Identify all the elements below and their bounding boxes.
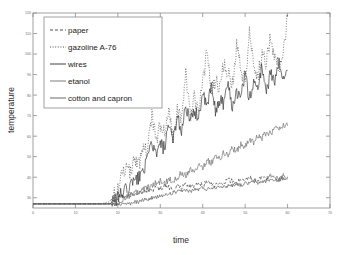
chart-legend: papergazoline A-76wiresetanolcotton and … [44, 17, 162, 108]
legend-item-label: gazoline A-76 [68, 43, 117, 52]
x-axis-title: time [173, 235, 189, 245]
y-tick-label: 100 [25, 52, 31, 56]
x-tick-label: 60 [286, 211, 290, 215]
x-tick-label: 30 [158, 211, 162, 215]
y-tick-label: 120 [25, 11, 31, 15]
y-tick-label: 30 [27, 196, 31, 200]
y-tick-label: 40 [27, 176, 31, 180]
legend-item-label: paper [68, 26, 89, 35]
y-tick-label: 90 [27, 73, 31, 77]
x-tick-label: 10 [73, 211, 77, 215]
x-tick-label: 50 [243, 211, 247, 215]
chart-figure: 30405060708090100110120 010203040506070 … [0, 0, 350, 255]
y-axis-title: temperature [6, 87, 16, 133]
x-tick-label: 40 [201, 211, 205, 215]
y-tick-label: 110 [25, 32, 31, 36]
legend-item-label: cotton and capron [68, 94, 132, 103]
y-tick-label: 60 [27, 135, 31, 139]
legend-item-label: wires [67, 60, 87, 69]
x-tick-label: 20 [116, 211, 120, 215]
y-tick-label: 70 [27, 114, 31, 118]
y-tick-label: 50 [27, 155, 31, 159]
y-tick-label: 80 [27, 94, 31, 98]
x-tick-label: 0 [32, 211, 34, 215]
temperature-vs-time-line-chart: 30405060708090100110120 010203040506070 … [0, 0, 350, 255]
x-tick-label: 70 [328, 211, 332, 215]
legend-item-label: etanol [68, 77, 90, 86]
